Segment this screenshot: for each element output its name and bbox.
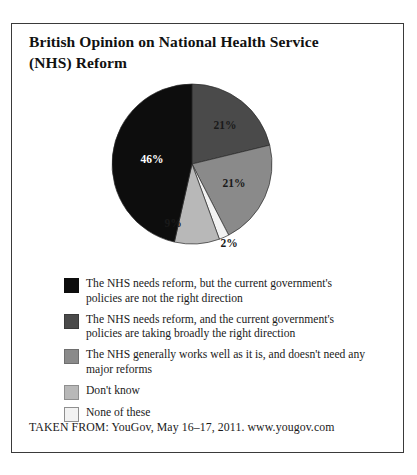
pie-slices — [112, 84, 272, 244]
pie-chart: 21%21%9%2%46% — [12, 79, 405, 279]
legend-item: Don't know — [64, 384, 394, 400]
legend-item: The NHS needs reform, but the current go… — [64, 277, 394, 307]
figure-frame: British Opinion on National Health Servi… — [11, 23, 404, 453]
pie-slice-value-label: 21% — [214, 119, 237, 131]
legend-item-label: The NHS needs reform, but the current go… — [86, 277, 371, 307]
source-note: TAKEN FROM: YouGov, May 16–17, 2011. www… — [29, 420, 335, 435]
legend-item: The NHS generally works well as it is, a… — [64, 348, 394, 378]
pie-slice-value-label: 2% — [220, 237, 237, 249]
legend-item-label: The NHS generally works well as it is, a… — [86, 348, 371, 378]
chart-legend: The NHS needs reform, but the current go… — [64, 277, 394, 428]
pie-chart-canvas: 21%21%9%2%46% — [107, 79, 277, 254]
legend-color-swatch — [64, 278, 79, 293]
pie-slice-value-label: 9% — [164, 217, 181, 229]
legend-color-swatch — [64, 314, 79, 329]
legend-color-swatch — [64, 349, 79, 364]
legend-item-label: The NHS needs reform, and the current go… — [86, 313, 371, 343]
page-title: British Opinion on National Health Servi… — [29, 32, 359, 74]
legend-item-label: Don't know — [86, 384, 140, 399]
legend-color-swatch — [64, 385, 79, 400]
legend-item-label: None of these — [86, 406, 150, 421]
pie-chart-svg: 21%21%9%2%46% — [107, 79, 277, 254]
legend-item: The NHS needs reform, and the current go… — [64, 313, 394, 343]
pie-slice-value-label: 21% — [223, 177, 246, 189]
pie-slice-value-label: 46% — [141, 153, 164, 165]
